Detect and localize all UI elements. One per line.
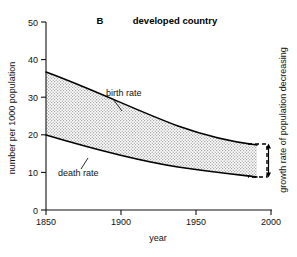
y-tick-label-30: 30 [28, 93, 38, 103]
y-tick-label-0: 0 [33, 206, 38, 216]
x-tick-label-2000: 2000 [261, 217, 281, 227]
panel-letter: B [97, 15, 104, 26]
y-tick-label-20: 20 [28, 130, 38, 140]
x-tick-label-1900: 1900 [111, 217, 131, 227]
chart-title: developed country [133, 15, 218, 26]
x-tick-label-1950: 1950 [186, 217, 206, 227]
x-axis-label: year [149, 233, 167, 243]
birth-rate-label: birth rate [106, 88, 142, 98]
right-axis-label: growth rate of population decreasing [278, 47, 288, 193]
y-axis-label: number per 1000 population [7, 62, 17, 175]
y-tick-label-50: 50 [28, 18, 38, 28]
x-tick-label-1850: 1850 [36, 217, 56, 227]
population-transition-chart: 0 10 20 30 40 50 1850 1900 1950 2000 yea… [0, 0, 297, 257]
death-rate-label: death rate [58, 168, 99, 178]
y-tick-label-40: 40 [28, 55, 38, 65]
y-tick-label-10: 10 [28, 168, 38, 178]
